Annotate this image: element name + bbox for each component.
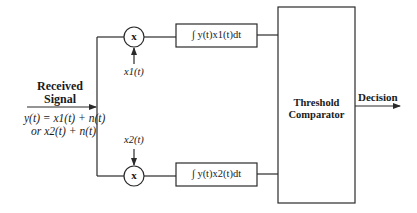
reference-signal-lower: x2(t): [124, 134, 144, 145]
input-equation: y(t) = x1(t) + n(t) or x2(t) + n(t): [24, 112, 96, 138]
integrator-label-upper: ∫ y(t)x1(t)dt: [176, 29, 257, 40]
input-label: Received Signal: [30, 80, 90, 106]
input-label-line2: Signal: [30, 93, 90, 106]
input-equation-line1: y(t) = x1(t) + n(t): [24, 112, 96, 125]
integrator-label-lower: ∫ y(t)x2(t)dt: [176, 168, 257, 179]
reference-signal-upper: x1(t): [124, 66, 144, 77]
comparator-label-line2: Comparator: [278, 109, 355, 121]
output-label: Decision: [358, 91, 398, 103]
mixer-symbol-upper: x: [128, 30, 140, 42]
mixer-symbol-lower: x: [128, 169, 140, 181]
comparator-label: Threshold Comparator: [278, 97, 355, 121]
comparator-label-line1: Threshold: [278, 97, 355, 109]
input-equation-line2: or x2(t) + n(t): [24, 125, 96, 138]
